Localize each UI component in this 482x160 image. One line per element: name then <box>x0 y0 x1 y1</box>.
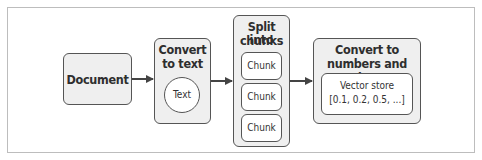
vector-store-values: [0.1, 0.2, 0.5, ...] <box>322 94 412 106</box>
convert-numbers-title-line1: Convert to <box>314 43 420 56</box>
chunk-label-2: Chunk <box>242 84 281 109</box>
text-circle: Text <box>164 77 200 113</box>
vector-store-label: Vector store <box>322 80 412 92</box>
convert-to-text-title-line1: Convert <box>155 43 210 56</box>
chunk-label-3: Chunk <box>242 115 281 140</box>
convert-to-text-title-line2: to text <box>155 57 210 70</box>
chunk-box-2: Chunk <box>241 83 282 111</box>
convert-to-numbers-node: Convert to numbers and store Vector stor… <box>313 38 421 124</box>
vector-store-box: Vector store [0.1, 0.2, 0.5, ...] <box>321 73 413 115</box>
chunk-label-1: Chunk <box>242 53 281 78</box>
chunk-box-1: Chunk <box>241 52 282 80</box>
split-into-chunks-node: Split into chunks Chunk Chunk Chunk <box>233 15 290 147</box>
document-node: Document <box>63 53 132 105</box>
convert-to-text-node: Convert to text Text <box>154 38 211 124</box>
split-title-line2: chunks <box>234 34 289 47</box>
text-circle-label: Text <box>165 78 199 111</box>
chunk-box-3: Chunk <box>241 114 282 142</box>
document-label: Document <box>64 73 131 86</box>
